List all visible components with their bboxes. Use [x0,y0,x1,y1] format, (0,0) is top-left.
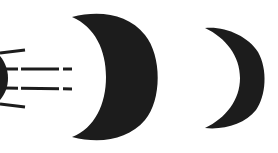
partial-disc-icon [0,56,8,100]
motion-line-bottom [0,104,25,107]
large-crescent-icon [72,14,158,140]
motion-line-top [0,50,25,53]
moon-phase-diagram [0,0,278,153]
motion-lines [0,50,72,107]
small-crescent-icon [205,28,265,129]
motion-line-dashed-lower [6,88,72,89]
